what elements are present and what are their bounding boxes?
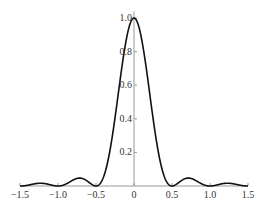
x-tick-label: 0.5 xyxy=(166,189,179,200)
y-tick-label: 0.8 xyxy=(120,46,133,57)
y-tick-label: 0.4 xyxy=(120,113,133,124)
x-tick-labels: −1.5−1.0−0.500.51.01.5 xyxy=(11,189,254,200)
x-tick-label: −0.5 xyxy=(87,189,105,200)
y-tick-label: 0.2 xyxy=(120,146,133,157)
x-tick-label: 1.0 xyxy=(204,189,217,200)
axes xyxy=(20,11,248,186)
x-tick-label: −1.5 xyxy=(11,189,29,200)
sinc-squared-chart: −1.5−1.0−0.500.51.01.5 0.20.40.60.81.0 xyxy=(0,0,260,212)
y-tick-label: 1.0 xyxy=(120,12,133,23)
y-tick-labels: 0.20.40.60.81.0 xyxy=(120,12,133,157)
x-tick-label: 0 xyxy=(132,189,137,200)
y-tick-label: 0.6 xyxy=(120,79,133,90)
x-tick-label: 1.5 xyxy=(242,189,255,200)
x-tick-label: −1.0 xyxy=(49,189,67,200)
